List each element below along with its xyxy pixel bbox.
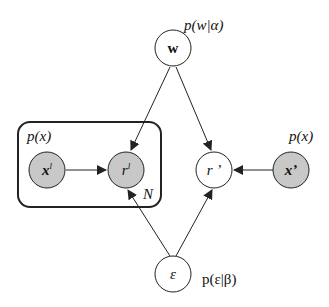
- label-p-w: p(w|α): [184, 18, 224, 33]
- edge-eps-rprime: [176, 190, 212, 256]
- label-p-x-plate: p(x): [27, 129, 51, 144]
- node-epsilon-label: ε: [155, 267, 191, 282]
- edge-w-rl: [131, 67, 170, 150]
- node-x-prime-label: x’: [273, 163, 309, 178]
- edge-w-rprime: [176, 67, 211, 150]
- node-x-l-label: xl: [29, 162, 65, 178]
- label-p-eps: p(ε|β): [202, 272, 236, 287]
- plate-N-label: N: [143, 187, 153, 202]
- label-p-x-right: p(x): [289, 129, 313, 144]
- node-w-label: w: [155, 41, 191, 56]
- node-r-prime-label: r ’: [196, 163, 232, 178]
- node-r-l-label: rl: [108, 162, 144, 178]
